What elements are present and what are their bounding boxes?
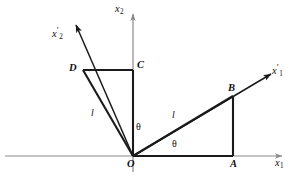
point-label-B: B	[228, 83, 235, 94]
angle-label-theta-left: θ	[136, 122, 141, 132]
point-label-D: D	[69, 63, 77, 74]
x2-axis-label: x2	[115, 4, 124, 16]
segment-OB	[133, 96, 233, 156]
x1-axis-label: x1	[275, 158, 284, 170]
figure-canvas	[0, 0, 300, 182]
x2-prime-axis-label: x′2	[52, 26, 63, 41]
point-label-C: C	[137, 60, 144, 71]
length-label-OB: l	[172, 110, 175, 120]
point-label-A: A	[230, 159, 237, 170]
length-label-OD: l	[91, 108, 94, 118]
angle-label-theta-right: θ	[172, 139, 177, 149]
point-label-O: O	[127, 159, 135, 170]
rotation-figure: x1 x2 x′1 x′2 O A B C D l l θ θ	[0, 0, 300, 182]
x2-prime-axis-line	[76, 25, 133, 156]
x1-prime-axis-label: x′1	[272, 63, 283, 78]
